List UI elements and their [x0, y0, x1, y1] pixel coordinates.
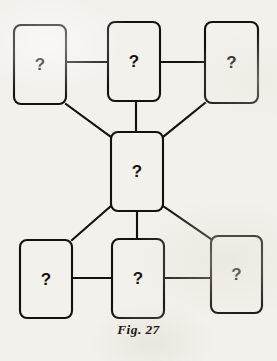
- figure-caption: Fig. 27: [0, 322, 277, 338]
- puzzle-diagram: ???????: [0, 0, 277, 361]
- node-top-center: ?: [108, 22, 160, 101]
- question-mark-icon-bottom-right: ?: [231, 265, 241, 284]
- node-bottom-center: ?: [112, 239, 164, 318]
- question-mark-icon-top-right: ?: [226, 53, 236, 72]
- question-mark-icon-bottom-center: ?: [133, 269, 143, 288]
- figure-container: ??????? Fig. 27: [0, 0, 277, 361]
- nodes-layer: ???????: [14, 22, 262, 318]
- question-mark-icon-center-hub: ?: [132, 162, 142, 181]
- connector-top-right-to-center-hub: [163, 103, 205, 137]
- connector-top-left-to-center-hub: [66, 104, 111, 137]
- node-bottom-left: ?: [20, 240, 72, 318]
- node-top-right: ?: [205, 22, 258, 103]
- node-bottom-right: ?: [211, 236, 262, 313]
- node-top-left: ?: [14, 25, 66, 104]
- connector-center-hub-to-bottom-right: [163, 206, 211, 239]
- question-mark-icon-top-center: ?: [129, 52, 139, 71]
- connector-center-hub-to-bottom-left: [72, 206, 111, 240]
- node-center-hub: ?: [111, 132, 163, 211]
- question-mark-icon-top-left: ?: [35, 55, 45, 74]
- question-mark-icon-bottom-left: ?: [41, 270, 51, 289]
